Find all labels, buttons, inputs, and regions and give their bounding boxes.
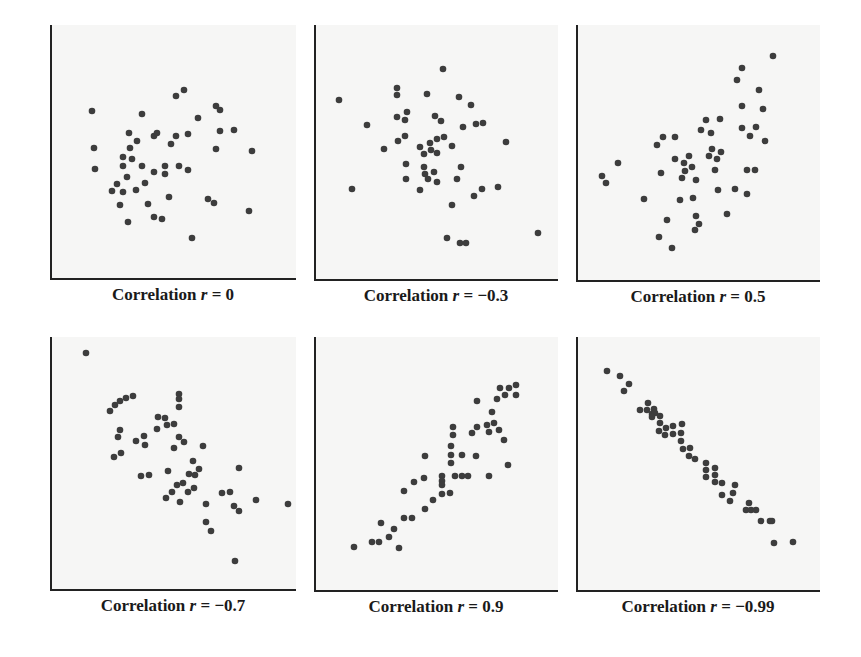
panel-caption: Correlation r = 0 xyxy=(50,285,296,305)
data-point xyxy=(746,500,753,507)
data-point xyxy=(505,462,512,469)
data-point xyxy=(285,501,292,508)
data-point xyxy=(479,186,486,193)
data-point xyxy=(139,163,146,170)
data-point xyxy=(471,193,478,200)
data-point xyxy=(656,428,663,435)
data-point xyxy=(185,489,192,496)
data-point xyxy=(336,97,343,104)
data-point xyxy=(133,187,140,194)
data-point xyxy=(164,422,171,429)
scatter-svg xyxy=(50,25,296,279)
data-point xyxy=(686,153,693,160)
panel-r-neg-0-3: Correlation r = −0.3 xyxy=(314,25,558,310)
data-point xyxy=(717,116,724,123)
data-point xyxy=(431,169,438,176)
data-point xyxy=(394,92,401,99)
data-point xyxy=(712,479,719,486)
data-point xyxy=(657,413,664,420)
data-point xyxy=(200,443,207,450)
data-point xyxy=(680,446,687,453)
data-point xyxy=(185,167,192,174)
data-point xyxy=(369,539,376,546)
data-point xyxy=(615,160,622,167)
data-point xyxy=(681,160,688,167)
data-point xyxy=(689,164,696,171)
data-point xyxy=(138,473,145,480)
data-point xyxy=(124,174,131,181)
data-point xyxy=(236,465,243,472)
data-point xyxy=(474,424,481,431)
data-point xyxy=(718,149,725,156)
data-point xyxy=(447,490,454,497)
scatter-svg xyxy=(576,25,820,281)
data-point xyxy=(703,117,710,124)
data-point xyxy=(376,539,383,546)
data-point xyxy=(396,545,403,552)
data-point xyxy=(687,445,694,452)
data-point xyxy=(712,167,719,174)
data-point xyxy=(758,518,765,525)
data-point xyxy=(502,392,509,399)
data-point xyxy=(434,150,441,157)
data-point xyxy=(752,167,759,174)
data-point xyxy=(432,113,439,120)
data-point xyxy=(714,156,721,163)
data-point xyxy=(734,77,741,84)
data-point xyxy=(401,515,408,522)
data-point xyxy=(231,127,238,134)
data-point xyxy=(213,146,220,153)
data-point xyxy=(678,430,685,437)
data-point xyxy=(762,138,769,145)
data-point xyxy=(403,176,410,183)
panel-r-neg-0-7: Correlation r = −0.7 xyxy=(50,337,296,620)
data-point xyxy=(669,245,676,252)
data-point xyxy=(111,454,118,461)
data-point xyxy=(130,393,137,400)
data-point xyxy=(424,91,431,98)
data-point xyxy=(654,142,661,149)
data-point xyxy=(162,163,169,170)
data-point xyxy=(604,368,611,375)
data-point xyxy=(450,432,457,439)
data-point xyxy=(693,177,700,184)
data-point xyxy=(732,186,739,193)
data-point xyxy=(491,420,498,427)
data-point xyxy=(141,433,148,440)
data-point xyxy=(486,429,493,436)
data-point xyxy=(171,421,178,428)
data-point xyxy=(125,219,132,226)
data-point xyxy=(417,144,424,151)
data-point xyxy=(155,414,162,421)
data-point xyxy=(690,195,697,202)
data-point xyxy=(180,480,187,487)
data-point xyxy=(434,136,441,143)
data-point xyxy=(677,197,684,204)
data-point xyxy=(724,211,731,218)
data-point xyxy=(641,196,648,203)
data-point xyxy=(177,499,184,506)
data-point xyxy=(146,472,153,479)
scatter-svg xyxy=(314,337,558,591)
panel-r-0: Correlation r = 0 xyxy=(50,25,296,309)
data-point xyxy=(719,480,726,487)
data-point xyxy=(176,434,183,441)
data-point xyxy=(92,166,99,173)
data-point xyxy=(672,134,679,141)
data-point xyxy=(186,471,193,478)
data-point xyxy=(386,534,393,541)
data-point xyxy=(698,127,705,134)
data-point xyxy=(227,489,234,496)
data-point xyxy=(703,474,710,481)
data-point xyxy=(139,111,146,118)
data-point xyxy=(484,422,491,429)
data-point xyxy=(133,438,140,445)
data-point xyxy=(126,130,133,137)
data-point xyxy=(211,200,218,207)
data-point xyxy=(448,443,455,450)
data-point xyxy=(454,176,461,183)
data-point xyxy=(168,141,175,148)
data-point xyxy=(449,202,456,209)
data-point xyxy=(696,221,703,228)
data-point xyxy=(381,146,388,153)
